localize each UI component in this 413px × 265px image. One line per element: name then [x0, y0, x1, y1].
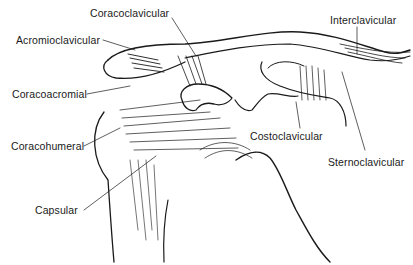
label-costoclavicular: Costoclavicular — [250, 130, 323, 142]
shoulder-ligament-diagram: Coracoclavicular Interclavicular Acromio… — [0, 0, 413, 265]
leader-sternoclavicular — [342, 72, 365, 150]
leader-coracoacromial — [87, 86, 130, 94]
leader-capsular — [84, 156, 156, 210]
leader-coracoclavicular — [172, 18, 196, 56]
label-capsular: Capsular — [35, 204, 78, 216]
label-sternoclavicular: Sternoclavicular — [328, 156, 404, 168]
coracoid-outline — [181, 84, 232, 111]
leader-costoclavicular — [296, 102, 300, 128]
label-coracoacromial: Coracoacromial — [12, 88, 87, 100]
label-acromioclavicular: Acromioclavicular — [16, 34, 100, 46]
label-coracohumeral: Coracohumeral — [11, 140, 84, 152]
scapula-border — [236, 152, 330, 262]
leader-acromioclavicular — [103, 40, 135, 50]
humerus-head-outline — [95, 112, 114, 262]
leader-coracohumeral — [84, 128, 120, 146]
label-coracoclavicular: Coracoclavicular — [90, 7, 169, 19]
label-interclavicular: Interclavicular — [330, 14, 396, 26]
